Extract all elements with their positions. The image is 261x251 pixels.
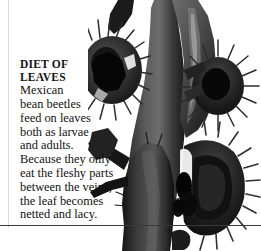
bottom-horizontal-rule xyxy=(0,225,261,226)
caption-block: DIET OF LEAVES Mexican bean beetles feed… xyxy=(20,58,140,222)
caption-body: Mexican bean beetles feed on leaves both… xyxy=(20,84,140,222)
left-margin-rule xyxy=(8,0,9,228)
document-page: DIET OF LEAVES Mexican bean beetles feed… xyxy=(0,0,261,251)
caption-heading: DIET OF LEAVES xyxy=(20,58,140,83)
